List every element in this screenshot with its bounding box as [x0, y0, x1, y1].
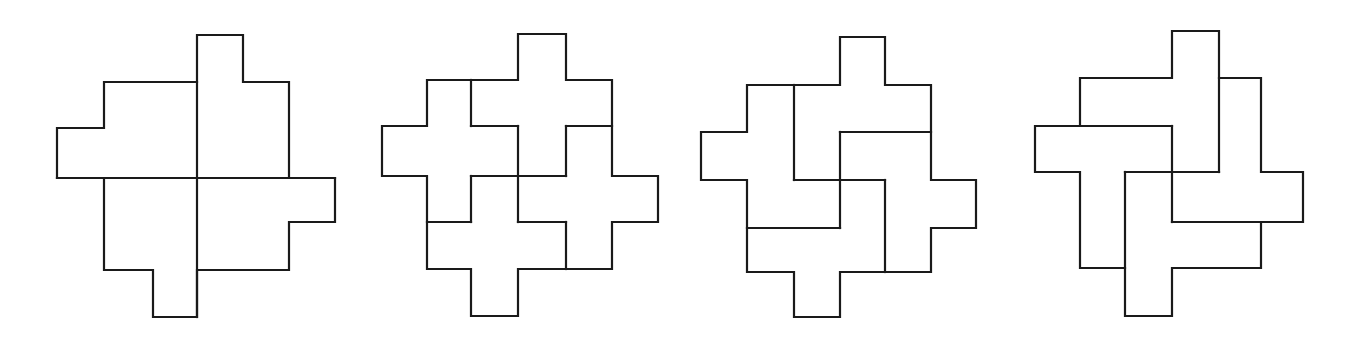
tiling-diagram — [0, 0, 1354, 349]
background — [0, 0, 1354, 349]
